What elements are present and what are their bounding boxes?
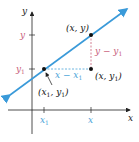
tick-label-x: x	[88, 115, 93, 125]
label-point-x1-y1: (x1, y1)	[38, 87, 69, 98]
label-horizontal-segment: x − x1	[55, 70, 82, 81]
point-x-y1	[89, 67, 93, 71]
pointer-arrow	[46, 73, 52, 85]
point-slope-diagram: x y x1 x y y1 (x, y) (x, y1) (x1, y1) x …	[0, 0, 139, 142]
label-point-x-y1: (x, y1)	[95, 71, 122, 82]
tick-label-x1: x1	[40, 115, 49, 126]
label-vertical-segment: y − y1	[94, 46, 122, 57]
label-point-x-y: (x, y)	[66, 23, 89, 33]
point-x-y	[89, 33, 93, 37]
tick-label-y: y	[19, 30, 26, 40]
point-x1-y1	[42, 67, 46, 71]
x-axis-label: x	[128, 113, 133, 123]
y-axis-label: y	[21, 6, 28, 16]
tick-label-y1: y1	[15, 64, 25, 75]
